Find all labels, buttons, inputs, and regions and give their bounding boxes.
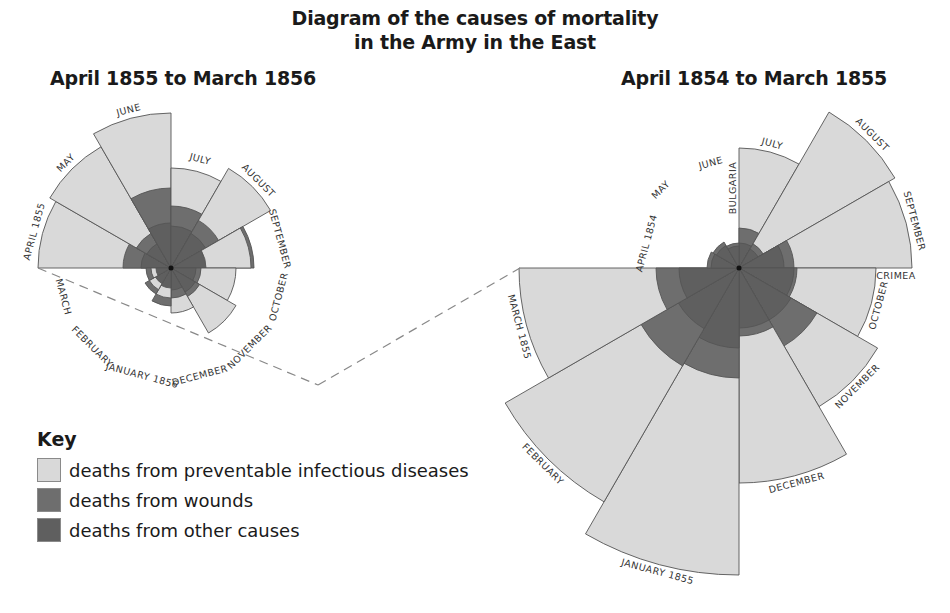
legend-label-disease: deaths from preventable infectious disea… <box>69 460 469 481</box>
legend-item-disease: deaths from preventable infectious disea… <box>37 455 469 485</box>
legend-title: Key <box>37 428 469 450</box>
legend-label-other: deaths from other causes <box>69 520 300 541</box>
right-month-label: APRIL 1854 <box>633 213 659 273</box>
right-month-label: JUNE <box>696 154 724 171</box>
left-month-label: JULY <box>187 150 212 166</box>
left-month-label: FEBRUARY <box>70 324 116 370</box>
right-month-label: JULY <box>760 135 785 151</box>
region-label-bulgaria: BULGARIA <box>727 162 738 215</box>
region-label-crimea: CRIMEA <box>876 270 916 281</box>
legend-swatch-wounds <box>37 488 61 512</box>
legend-swatch-disease <box>37 458 61 482</box>
left-month-label: JUNE <box>114 101 142 118</box>
right-month-label: MAY <box>649 178 672 201</box>
left-center-dot <box>169 266 174 271</box>
legend-item-wounds: deaths from wounds <box>37 485 469 515</box>
legend-swatch-other <box>37 518 61 542</box>
left-month-label: SEPTEMBER <box>267 208 294 270</box>
right-rose-chart <box>505 112 912 575</box>
dashed-connector <box>318 268 520 385</box>
left-month-label: JANUARY 1856 <box>104 360 180 390</box>
left-rose-chart <box>38 113 271 333</box>
right-center-dot <box>737 266 742 271</box>
legend: Key deaths from preventable infectious d… <box>37 428 469 545</box>
left-month-label: MARCH <box>54 277 74 316</box>
left-month-label: OCTOBER <box>266 271 290 322</box>
legend-item-other: deaths from other causes <box>37 515 469 545</box>
left-month-label: DECEMBER <box>171 363 229 388</box>
legend-label-wounds: deaths from wounds <box>69 490 253 511</box>
